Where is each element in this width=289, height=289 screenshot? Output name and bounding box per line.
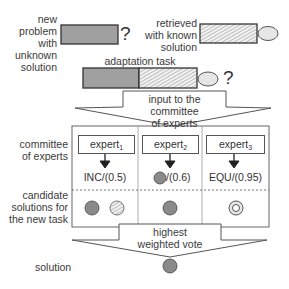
committee-row-label: committee of experts <box>0 138 68 162</box>
new-problem-question-mark: ? <box>120 24 131 44</box>
expert-3-box: expert3 <box>206 135 265 154</box>
retrieved-label: retrieved with known solution <box>140 17 197 53</box>
solution-circle-icon <box>163 259 177 273</box>
expert-2-box: expert2 <box>142 135 199 154</box>
input-arrow-label: input to the committee of experts <box>123 93 226 129</box>
candidate-dark-circle-icon <box>163 201 177 215</box>
adaptation-task-label: adaptation task <box>83 55 197 67</box>
expert-3-output: EQU/(0.95) <box>202 171 269 183</box>
candidate-hatched-circle-icon <box>110 201 124 215</box>
expert2-output-circle-icon <box>154 172 166 184</box>
adaptation-question-mark: ? <box>223 68 234 88</box>
vote-arrow-label: highest weighted vote <box>119 226 221 250</box>
adaptation-case-part <box>139 68 197 88</box>
expert-1-output: INC/(0.5) <box>72 171 138 183</box>
candidates-row-label: candidate solutions for the new task <box>0 189 68 225</box>
expert-1-box: expert1 <box>78 135 135 154</box>
new-problem-label: new problem with unknown solution <box>0 13 57 73</box>
new-problem-box <box>61 25 118 44</box>
known-solution-ellipse <box>258 27 278 41</box>
candidate-dark-circle-icon <box>85 201 99 215</box>
retrieved-case-box <box>200 24 257 43</box>
adaptation-problem-part <box>83 68 139 88</box>
unknown-solution-ellipse <box>198 72 218 86</box>
solution-label: solution <box>35 261 71 273</box>
expert-2-output: /(0.6) <box>166 171 192 183</box>
expert-arrows <box>100 153 239 168</box>
